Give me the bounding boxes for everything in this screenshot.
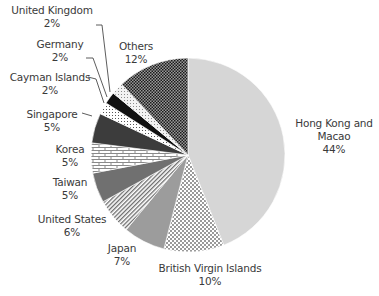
leader-uk xyxy=(96,25,110,92)
label-taiwan: Taiwan 5% xyxy=(53,176,88,202)
label-uk: United Kingdom 2% xyxy=(11,4,92,30)
label-singapore: Singapore 5% xyxy=(26,108,77,134)
label-us: United States 6% xyxy=(38,213,107,239)
label-others: Others 12% xyxy=(119,40,153,66)
label-cayman: Cayman Islands 2% xyxy=(10,71,91,97)
label-germany: Germany 2% xyxy=(37,38,84,64)
pie-slices xyxy=(91,58,285,252)
label-bvi: British Virgin Islands 10% xyxy=(159,262,262,288)
label-japan: Japan 7% xyxy=(108,242,136,268)
leader-singapore xyxy=(82,113,92,116)
label-hk-macao: Hong Kong and Macao 44% xyxy=(295,117,373,156)
label-korea: Korea 5% xyxy=(56,143,85,169)
